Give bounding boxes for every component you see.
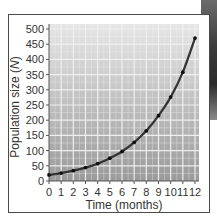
x-tick-label: 10	[165, 186, 177, 198]
x-tick-label: 3	[82, 186, 88, 198]
data-point	[193, 36, 197, 40]
x-tick-label: 9	[155, 186, 161, 198]
y-tick-label: 200	[26, 114, 44, 126]
data-point	[71, 169, 75, 173]
data-point	[108, 156, 112, 160]
y-tick-label: 0	[38, 175, 44, 187]
data-point	[144, 129, 148, 133]
x-tick-label: 11	[177, 186, 188, 198]
x-tick-label: 0	[46, 186, 52, 198]
data-point	[59, 171, 63, 175]
data-point	[84, 166, 88, 170]
data-point	[181, 70, 185, 74]
x-tick-label: 1	[58, 186, 64, 198]
data-point	[120, 150, 124, 154]
y-tick-label: 250	[26, 99, 44, 111]
y-tick-label: 300	[26, 84, 44, 96]
y-tick-label: 150	[26, 129, 44, 141]
x-tick-label: 2	[70, 186, 76, 198]
x-tick-label: 6	[119, 186, 125, 198]
x-tick-label: 7	[131, 186, 137, 198]
y-tick-label: 400	[26, 53, 44, 65]
y-tick-label: 450	[26, 38, 44, 50]
data-point	[169, 95, 173, 99]
y-tick-label: 350	[26, 69, 44, 81]
y-axis-ticks: 050100150200250300350400450500	[26, 23, 49, 187]
x-axis-ticks: 0123456789101112	[46, 181, 201, 198]
exponential-growth-chart: 050100150200250300350400450500 012345678…	[0, 0, 217, 216]
x-axis-label: Time (months)	[86, 198, 163, 212]
y-axis-label: Population size (N)	[8, 56, 22, 157]
y-tick-label: 50	[32, 160, 44, 172]
y-tick-label: 500	[26, 23, 44, 35]
data-point	[47, 173, 51, 177]
x-tick-label: 8	[143, 186, 149, 198]
data-point	[132, 140, 136, 144]
x-tick-label: 4	[95, 186, 101, 198]
y-tick-label: 100	[26, 145, 44, 157]
data-point	[157, 114, 161, 118]
x-tick-label: 5	[107, 186, 113, 198]
data-point	[96, 162, 100, 166]
x-tick-label: 12	[189, 186, 201, 198]
